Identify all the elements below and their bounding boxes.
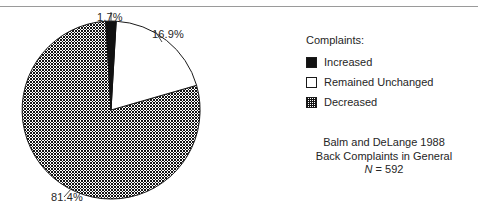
slice-label-increased: 1.7%	[97, 11, 123, 23]
pie-chart-graphic: 1.7% 16.9% 81.4%	[0, 0, 290, 215]
open-white-swatch-icon	[306, 77, 317, 88]
solid-black-swatch-icon	[306, 57, 317, 68]
chart-caption: Balm and DeLange 1988 Back Complaints in…	[296, 136, 472, 177]
legend-label-decreased: Decreased	[324, 96, 377, 108]
chart-legend: Complaints: Increased Remained Unchanged…	[306, 34, 476, 115]
slice-label-unchanged: 16.9%	[152, 28, 184, 40]
legend-label-unchanged: Remained Unchanged	[324, 76, 433, 88]
pie-chart-figure: 1.7% 16.9% 81.4% Complaints: Increased R…	[0, 0, 478, 215]
caption-n-symbol: N	[365, 163, 373, 175]
pie-svg	[0, 0, 290, 215]
checkered-swatch-icon	[306, 97, 317, 108]
legend-title: Complaints:	[306, 34, 476, 46]
caption-sample-size: N = 592	[296, 163, 472, 177]
legend-item-increased: Increased	[306, 55, 476, 69]
caption-n-value: = 592	[376, 163, 404, 175]
legend-label-increased: Increased	[324, 56, 372, 68]
slice-label-decreased: 81.4%	[51, 191, 83, 203]
legend-item-unchanged: Remained Unchanged	[306, 75, 476, 89]
caption-subject: Back Complaints in General	[296, 150, 472, 164]
caption-source: Balm and DeLange 1988	[296, 136, 472, 150]
legend-item-decreased: Decreased	[306, 95, 476, 109]
